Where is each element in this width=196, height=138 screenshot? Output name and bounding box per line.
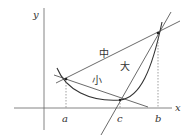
point-b xyxy=(157,32,160,35)
line-cb-label: 大 xyxy=(120,60,130,72)
chord-ab-line xyxy=(56,21,180,83)
point-c-label: c xyxy=(117,113,123,124)
chord-ac-label: 小 xyxy=(92,75,102,86)
y-axis-label: y xyxy=(32,9,39,20)
diagram-svg: y x a c b 中 小 大 xyxy=(0,0,196,138)
point-c xyxy=(119,99,122,102)
convex-curve xyxy=(57,22,162,100)
point-b-label: b xyxy=(155,113,161,124)
x-axis-label: x xyxy=(175,102,181,113)
chord-ab-label: 中 xyxy=(99,47,109,59)
diagram-canvas: y x a c b 中 小 大 xyxy=(0,0,196,138)
point-a xyxy=(65,78,68,81)
point-a-label: a xyxy=(62,113,68,124)
